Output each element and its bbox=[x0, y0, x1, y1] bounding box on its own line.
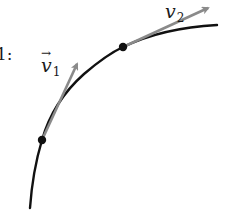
vector-arrow-icon: → bbox=[41, 47, 51, 59]
point-2 bbox=[119, 43, 127, 51]
vector-v1-label: →v1 bbox=[41, 56, 60, 78]
diagram-canvas bbox=[0, 0, 228, 210]
vector-v1-subscript: 1 bbox=[53, 65, 61, 79]
partial-label: 1: bbox=[0, 46, 13, 63]
vector-v2-label: v2 bbox=[165, 2, 184, 24]
point-1 bbox=[38, 136, 46, 144]
curve bbox=[30, 25, 217, 208]
vector-v2-symbol: v bbox=[165, 0, 176, 22]
vector-v2-subscript: 2 bbox=[177, 11, 185, 25]
